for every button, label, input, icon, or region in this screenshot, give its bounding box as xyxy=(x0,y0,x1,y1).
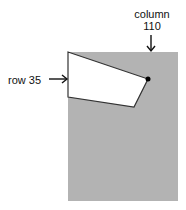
column-label: column 110 xyxy=(131,8,173,32)
diagram: column 110 row 35 xyxy=(0,0,186,210)
column-arrow-icon xyxy=(147,35,155,51)
column-number: 110 xyxy=(131,20,173,32)
row-label: row 35 xyxy=(8,74,41,86)
row-arrow-icon xyxy=(49,75,67,83)
column-label-text: column xyxy=(131,8,173,20)
marked-pixel-dot xyxy=(146,77,151,82)
